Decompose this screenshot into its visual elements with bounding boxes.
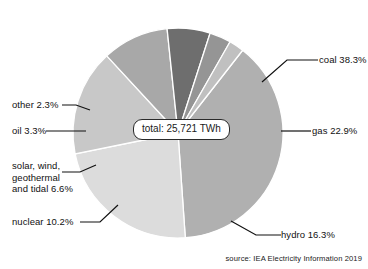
source-attribution: source: IEA Electricity Information 2019 bbox=[225, 254, 362, 263]
chart-canvas: coal 38.3% gas 22.9% hydro 16.3% other 2… bbox=[0, 0, 368, 269]
slice-label-gas: gas 22.9% bbox=[312, 125, 357, 137]
leader-line-coal bbox=[262, 60, 318, 82]
slice-label-nuclear: nuclear 10.2% bbox=[12, 216, 73, 228]
slice-label-solar-line2: geothermal bbox=[12, 172, 60, 183]
leader-line-hydro bbox=[231, 221, 281, 235]
total-callout-text: total: 25,721 TWh bbox=[142, 123, 221, 134]
slice-label-hydro: hydro 16.3% bbox=[281, 229, 335, 241]
slice-label-other: other 2.3% bbox=[12, 99, 58, 111]
slice-label-solar-line1: solar, wind, bbox=[12, 160, 60, 171]
slice-label-coal: coal 38.3% bbox=[319, 54, 367, 66]
total-callout: total: 25,721 TWh bbox=[133, 119, 230, 140]
slice-label-oil: oil 3.3% bbox=[12, 125, 46, 137]
slice-label-solar: solar, wind, geothermal and tidal 6.6% bbox=[12, 160, 73, 195]
slice-label-solar-line3: and tidal 6.6% bbox=[12, 183, 73, 194]
